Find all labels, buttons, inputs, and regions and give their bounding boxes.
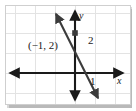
y-axis-label: y bbox=[79, 11, 83, 21]
grid-lines bbox=[6, 6, 130, 104]
y-tick-label-2: 2 bbox=[88, 35, 94, 46]
point-coordinate-label: (−1, 2) bbox=[28, 40, 58, 51]
x-axis-label: x bbox=[117, 76, 121, 86]
graph-figure: (−1, 2) 2 1 y x bbox=[0, 0, 136, 111]
coordinate-plane bbox=[6, 6, 130, 104]
graph-card: (−1, 2) 2 1 y x bbox=[5, 5, 131, 105]
axes bbox=[10, 11, 123, 100]
x-tick-label-1: 1 bbox=[90, 76, 96, 87]
point-marker bbox=[72, 30, 78, 36]
